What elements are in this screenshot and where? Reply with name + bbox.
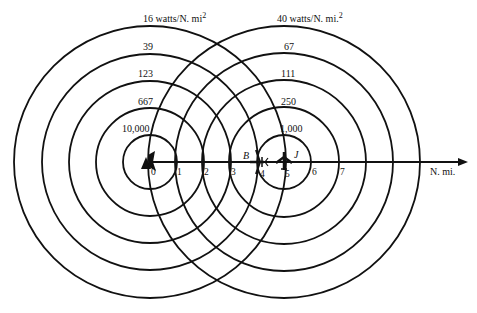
tick-4: 4	[260, 169, 265, 179]
power-density-diagram: N. mi. 0 1 2 3 4 5 6 7 10,000 667 123 39…	[0, 0, 477, 313]
bomber-label: B	[243, 150, 249, 161]
tick-7: 7	[340, 167, 345, 177]
jammer-label-5: 40 watts/N. mi.2	[277, 11, 343, 24]
axis-tick-labels: 0 1 2 3 4 5 6 7	[151, 167, 345, 179]
jammer-label-5-text: 40 watts/N. mi.	[277, 13, 339, 24]
radar-label-5-text: 16 watts/N. mi	[143, 13, 202, 24]
tick-5: 5	[285, 169, 290, 179]
radar-label-5-superscript: 2	[202, 11, 206, 20]
jammer-label: J	[294, 149, 299, 160]
jammer-label-4: 67	[284, 41, 294, 52]
tick-3: 3	[231, 167, 236, 177]
jammer-contour-labels: 1,000 250 111 67 40 watts/N. mi.2	[277, 11, 343, 134]
radar-label-1: 10,000	[122, 123, 150, 134]
jammer-label-3: 111	[281, 68, 295, 79]
radar-label-2: 667	[138, 96, 153, 107]
jammer-aircraft-icon	[276, 152, 292, 170]
jammer-label-5-superscript: 2	[339, 11, 343, 20]
radar-contour-labels: 10,000 667 123 39 16 watts/N. mi2	[122, 11, 206, 134]
tick-1: 1	[177, 167, 182, 177]
radar-label-3: 123	[138, 68, 153, 79]
radar-label-5: 16 watts/N. mi2	[143, 11, 206, 24]
tick-2: 2	[204, 167, 209, 177]
axis-arrowhead-icon	[458, 158, 468, 166]
jammer-label-1: 1,000	[280, 123, 303, 134]
radar-label-4: 39	[143, 41, 153, 52]
jammer-label-2: 250	[281, 96, 296, 107]
tick-6: 6	[312, 167, 317, 177]
axis-unit-label: N. mi.	[430, 166, 455, 177]
